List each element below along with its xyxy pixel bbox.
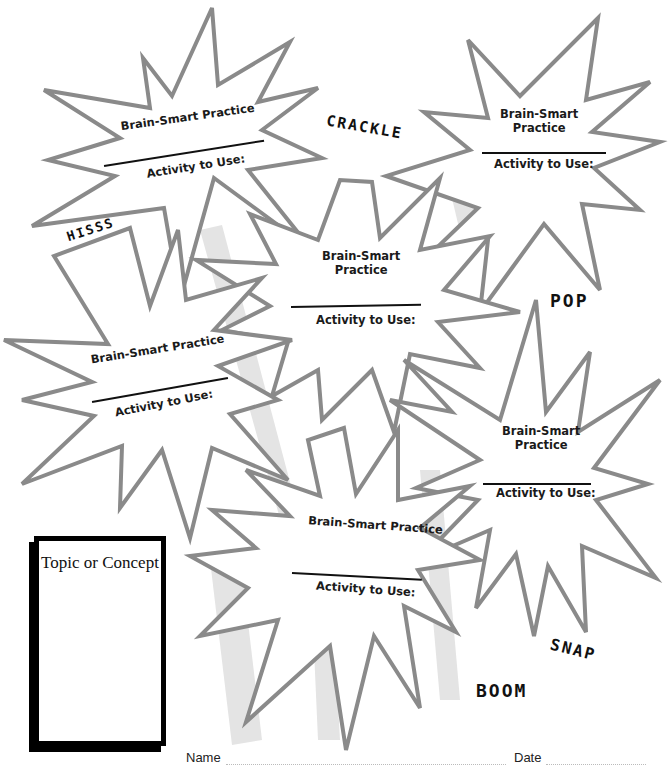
burst-3-practice-line2: Practice [322, 263, 400, 277]
topic-or-concept-box[interactable]: Topic or Concept [34, 536, 166, 746]
sfx-pop: POP [550, 290, 589, 311]
burst-5-practice-label: Brain-Smart Practice [502, 424, 580, 452]
date-field-line[interactable] [546, 764, 646, 765]
burst-5-practice-line2: Practice [502, 438, 580, 452]
burst-2-answer-line[interactable] [482, 152, 606, 154]
sfx-boom: BOOM [476, 680, 527, 701]
burst-2-activity-label: Activity to Use: [494, 157, 594, 171]
burst-5-answer-line[interactable] [483, 483, 591, 485]
burst-2-practice-label: Brain-Smart Practice [500, 107, 578, 135]
burst-5-activity-label: Activity to Use: [496, 486, 596, 500]
burst-3-practice-label: Brain-Smart Practice [322, 249, 400, 277]
date-label: Date [514, 750, 541, 765]
name-field-line[interactable] [226, 764, 506, 765]
name-label: Name [186, 750, 221, 765]
burst-5-practice-line1: Brain-Smart [502, 424, 580, 438]
burst-3-practice-line1: Brain-Smart [322, 249, 400, 263]
burst-2-practice-line2: Practice [500, 121, 578, 135]
burst-3-activity-label: Activity to Use: [316, 313, 416, 327]
burst-2-practice-line1: Brain-Smart [500, 107, 578, 121]
topic-title: Topic or Concept [39, 553, 161, 573]
